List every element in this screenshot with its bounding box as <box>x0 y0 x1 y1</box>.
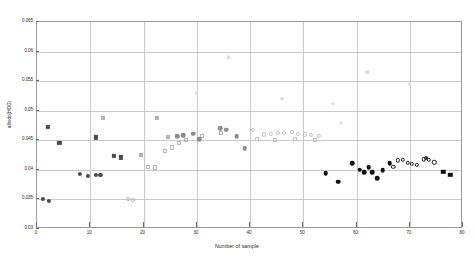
y-axis-tick-mark <box>36 198 39 199</box>
data-point <box>218 126 223 131</box>
data-point <box>262 132 266 136</box>
data-point <box>336 179 341 184</box>
data-point <box>131 198 135 202</box>
data-point <box>98 172 102 176</box>
data-point <box>366 165 371 170</box>
gridline-vertical <box>410 22 411 227</box>
data-point <box>166 135 170 139</box>
data-point <box>282 131 286 135</box>
data-point <box>155 116 159 120</box>
y-axis-tick-mark <box>36 51 39 52</box>
data-point <box>396 158 400 162</box>
y-axis-tick-mark <box>36 110 39 111</box>
data-point <box>139 153 143 157</box>
data-point <box>408 82 412 86</box>
data-point <box>184 138 188 142</box>
data-point <box>370 170 375 175</box>
gridline-horizontal <box>37 140 461 141</box>
data-point <box>380 168 385 173</box>
x-axis-tick-label: 50 <box>300 231 305 236</box>
y-axis-tick-mark <box>36 169 39 170</box>
data-point <box>153 165 157 169</box>
gridline-vertical <box>250 22 251 227</box>
y-axis-tick-mark <box>36 21 39 22</box>
data-point <box>227 56 231 60</box>
x-axis-tick-label: 30 <box>193 231 198 236</box>
x-axis-tick-label: 10 <box>87 231 92 236</box>
data-point <box>47 199 51 203</box>
data-point <box>269 132 273 136</box>
x-axis-tick-mark <box>89 222 90 227</box>
x-axis-tick-mark <box>409 222 410 227</box>
gridline-vertical <box>303 22 304 227</box>
data-point <box>273 138 277 142</box>
data-point <box>224 127 229 132</box>
data-point <box>362 170 367 175</box>
data-point <box>448 172 452 176</box>
gridline-horizontal <box>37 81 461 82</box>
data-point <box>410 162 414 166</box>
data-point <box>251 128 255 132</box>
gridline-horizontal <box>37 52 461 53</box>
data-point <box>175 134 180 139</box>
x-axis-tick-labels: 01020304050607080 <box>0 231 474 239</box>
data-point <box>195 91 199 95</box>
data-point <box>293 137 297 141</box>
data-point <box>276 131 280 135</box>
data-point <box>414 162 418 166</box>
x-axis-tick-label: 40 <box>247 231 252 236</box>
chart-page: 0.030.0350.040.0450.050.0550.060.065 010… <box>0 0 474 261</box>
data-point <box>280 97 284 101</box>
data-point <box>119 155 123 159</box>
data-point <box>219 131 223 135</box>
data-point <box>242 146 247 151</box>
plot-area <box>36 21 462 228</box>
gridline-vertical <box>90 22 91 227</box>
data-point <box>317 134 321 138</box>
data-point <box>126 197 130 201</box>
data-point <box>432 160 436 164</box>
gridline-horizontal <box>37 111 461 112</box>
data-point <box>296 132 300 136</box>
x-axis-tick-label: 80 <box>460 231 465 236</box>
x-axis-tick-mark <box>356 222 357 227</box>
y-axis-title: albedo(HOG) <box>7 60 12 170</box>
data-point <box>350 161 355 166</box>
data-point <box>289 130 293 134</box>
x-axis-tick-label: 60 <box>353 231 358 236</box>
gridline-vertical <box>144 22 145 227</box>
data-point <box>401 158 405 162</box>
x-axis-tick-label: 0 <box>35 231 37 236</box>
data-point <box>57 141 61 145</box>
data-point <box>303 132 307 136</box>
data-point <box>46 125 50 129</box>
data-point <box>93 172 97 176</box>
data-point <box>313 138 317 142</box>
data-point <box>146 165 150 169</box>
data-point <box>391 165 395 169</box>
data-point <box>365 70 369 74</box>
x-axis-tick-mark <box>462 222 463 227</box>
y-axis-tick-mark <box>36 80 39 81</box>
data-point <box>375 176 380 181</box>
x-axis-tick-mark <box>196 222 197 227</box>
x-axis-tick-mark <box>143 222 144 227</box>
data-point <box>112 154 116 158</box>
data-point <box>170 145 174 149</box>
x-axis-tick-label: 20 <box>140 231 145 236</box>
x-axis-tick-mark <box>249 222 250 227</box>
data-point <box>255 137 259 141</box>
gridline-horizontal <box>37 170 461 171</box>
x-axis-title: Number of sample <box>0 243 474 249</box>
data-point <box>101 116 105 120</box>
data-point <box>323 171 328 176</box>
data-point <box>339 121 343 125</box>
data-point <box>424 156 428 160</box>
x-axis-tick-mark <box>302 222 303 227</box>
data-point <box>309 133 313 137</box>
gridline-vertical <box>357 22 358 227</box>
gridline-vertical <box>197 22 198 227</box>
data-point <box>191 131 196 136</box>
data-point <box>93 135 97 139</box>
data-point <box>163 149 167 153</box>
